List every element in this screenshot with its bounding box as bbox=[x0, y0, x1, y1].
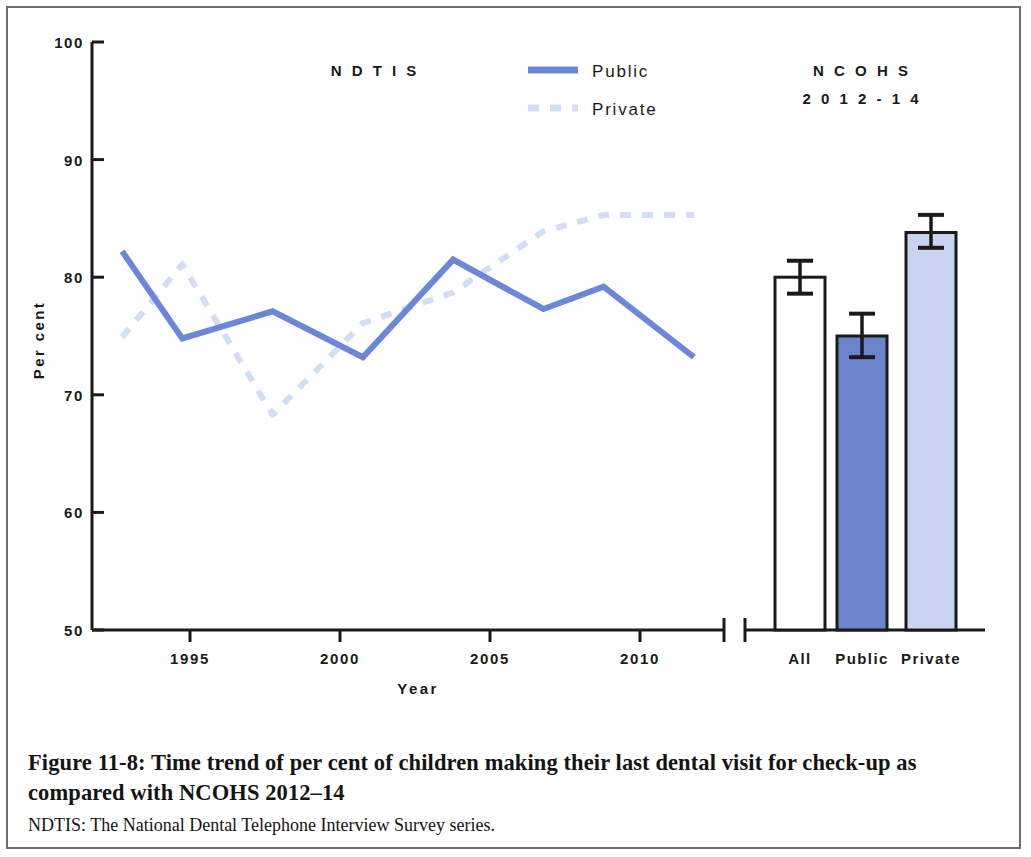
bar-private bbox=[906, 233, 956, 630]
chart-svg: 100 90 80 70 60 50 Per cent 1995 2000 20… bbox=[0, 0, 1031, 735]
line-panel-y-axis: 100 90 80 70 60 50 Per cent bbox=[30, 34, 104, 639]
y-tick-label-50: 50 bbox=[64, 622, 84, 639]
caption-note: NDTIS: The National Dental Telephone Int… bbox=[28, 814, 1003, 837]
bar-cat-label-private: Private bbox=[901, 650, 961, 667]
legend-label-public: Public bbox=[592, 62, 649, 81]
y-tick-label-60: 60 bbox=[64, 504, 84, 521]
x-tick-label-1995: 1995 bbox=[170, 650, 210, 667]
bar-panel-title-line1: N C O H S bbox=[813, 62, 911, 79]
bar-cat-label-public: Public bbox=[835, 650, 888, 667]
y-tick-label-70: 70 bbox=[64, 387, 84, 404]
chart-figure: 100 90 80 70 60 50 Per cent 1995 2000 20… bbox=[0, 0, 1031, 735]
x-tick-label-2005: 2005 bbox=[470, 650, 510, 667]
bar-panel-title-line2: 2 0 1 2 - 1 4 bbox=[802, 90, 921, 107]
legend-label-private: Private bbox=[592, 100, 658, 119]
chart-legend: Public Private bbox=[528, 62, 658, 119]
y-axis-title: Per cent bbox=[30, 301, 47, 379]
x-axis-title: Year bbox=[397, 680, 438, 697]
x-tick-label-2010: 2010 bbox=[620, 650, 660, 667]
y-tick-label-90: 90 bbox=[64, 152, 84, 169]
line-panel-x-axis: 1995 2000 2005 2010 Year bbox=[92, 618, 724, 697]
series-private-line bbox=[122, 215, 694, 415]
caption-title: Figure 11-8: Time trend of per cent of c… bbox=[28, 748, 1003, 807]
y-tick-label-80: 80 bbox=[64, 269, 84, 286]
figure-caption: Figure 11-8: Time trend of per cent of c… bbox=[28, 748, 1003, 837]
bar-all bbox=[775, 277, 825, 630]
line-panel-title: N D T I S bbox=[331, 62, 420, 79]
x-tick-label-2000: 2000 bbox=[320, 650, 360, 667]
y-tick-label-100: 100 bbox=[54, 34, 84, 51]
bar-group bbox=[775, 215, 956, 630]
figure-page: 100 90 80 70 60 50 Per cent 1995 2000 20… bbox=[0, 0, 1031, 857]
bar-public bbox=[837, 336, 887, 630]
bar-cat-label-all: All bbox=[788, 650, 811, 667]
